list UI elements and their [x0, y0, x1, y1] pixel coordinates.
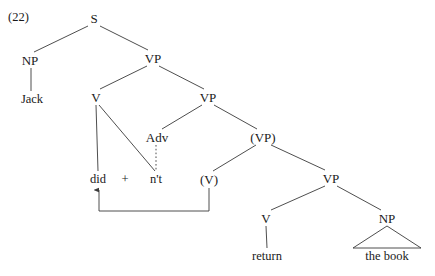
node-adv: Adv [146, 131, 168, 144]
branch-vp2-vptrace [214, 105, 257, 129]
branch-vptrace-vp4 [271, 145, 325, 170]
node-vp-1: VP [145, 52, 162, 65]
branch-vp2-adv [162, 105, 202, 129]
tree-lines [0, 0, 435, 276]
example-number: (22) [8, 11, 29, 24]
terminal-did: did [90, 173, 106, 186]
branch-s-vp1 [100, 26, 148, 50]
node-v-2: V [261, 212, 270, 225]
branch-vp4-v2 [271, 186, 325, 210]
node-np-object: NP [379, 212, 396, 225]
terminal-the-book: the book [365, 250, 408, 263]
branch-vptrace-vtrace [213, 145, 256, 171]
branch-s-np [34, 26, 88, 52]
movement-arrow [99, 188, 209, 211]
terminal-return: return [252, 250, 282, 263]
branch-v2-return [266, 226, 267, 248]
node-v-trace: (V) [200, 173, 218, 186]
node-vp-trace: (VP) [250, 131, 275, 144]
terminal-nt: n't [150, 173, 162, 186]
branch-vp1-v1 [100, 66, 147, 89]
plus-operator: + [121, 173, 128, 186]
syntax-tree-figure: (22) S NP Jack VP V VP Adv (VP) did + n'… [0, 0, 435, 276]
terminal-jack: Jack [21, 93, 43, 106]
node-s: S [90, 12, 97, 25]
node-v-1: V [91, 91, 100, 104]
node-vp-4: VP [323, 172, 340, 185]
node-np-subject: NP [22, 54, 39, 67]
node-vp-2: VP [200, 91, 217, 104]
branch-v1-did [96, 105, 98, 171]
np-triangle [353, 226, 421, 248]
branch-vp1-vp2 [159, 66, 204, 89]
branch-vp4-np [337, 186, 381, 210]
